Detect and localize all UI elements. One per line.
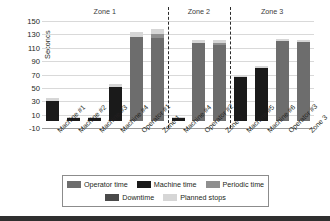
bar-segment-machine-time (46, 101, 59, 121)
legend-swatch-icon (105, 194, 119, 201)
legend-item-downtime[interactable]: Downtime (105, 193, 154, 202)
y-gridline (42, 21, 314, 22)
x-axis-tick-label: Zone 3 (308, 129, 313, 134)
page-footer-rule (0, 216, 330, 221)
x-axis-tick-label: Operator #3 (287, 129, 292, 134)
y-gridline (42, 61, 314, 62)
x-axis-tick-label: Machine #3 (98, 129, 103, 134)
y-gridline (42, 48, 314, 49)
legend-label: Downtime (122, 193, 154, 202)
legend-item-periodic-time[interactable]: Periodic time (206, 180, 265, 189)
y-gridline (42, 34, 314, 35)
y-axis-tick-label: 150 (6, 17, 40, 26)
chart-legend: Operator timeMachine timePeriodic time D… (62, 175, 269, 207)
x-axis-tick-label: Machine #1 (56, 129, 61, 134)
legend-item-machine-time[interactable]: Machine time (137, 180, 197, 189)
y-gridline (42, 88, 314, 89)
x-axis-tick-label: Operator #1 (140, 129, 145, 134)
x-axis-tick-label: Machine #4 (182, 129, 187, 134)
y-axis-tick-label: 90 (6, 57, 40, 66)
legend-label: Operator time (84, 180, 128, 189)
legend-row-1: Operator timeMachine timePeriodic time (63, 178, 268, 191)
y-axis-tick-label: 70 (6, 71, 40, 80)
legend-label: Machine time (154, 180, 197, 189)
legend-label: Planned stops (180, 193, 226, 202)
legend-swatch-icon (137, 181, 151, 188)
bar-machine-1[interactable] (46, 98, 59, 121)
x-axis-tick-label: Machine #5 (245, 129, 250, 134)
x-axis-tick-label: Machine #6 (266, 129, 271, 134)
y-axis-tick-label: 130 (6, 30, 40, 39)
y-axis-tick-label: 110 (6, 44, 40, 53)
x-axis-label-row: Machine #1Machine #2Machine #3Machine #4… (42, 129, 314, 171)
x-axis-tick-label: Operator #2 (203, 129, 208, 134)
zone-header-zone-1: Zone 1 (75, 7, 135, 16)
legend-swatch-icon (67, 181, 81, 188)
zone-header-zone-2: Zone 2 (169, 7, 229, 16)
y-axis-tick-label: -10 (6, 124, 40, 133)
legend-row-2: DowntimePlanned stops (63, 191, 268, 204)
x-axis-tick-label: Machine #4 (119, 129, 124, 134)
y-axis-tick-label: 50 (6, 84, 40, 93)
x-axis-tick-label: Machine #2 (77, 129, 82, 134)
x-axis-tick-label: Zone 1 (161, 129, 166, 134)
legend-swatch-icon (163, 194, 177, 201)
bar-chart-figure: Zone 1Zone 2Zone 3 Seconds -101030507090… (0, 0, 330, 221)
y-gridline (42, 75, 314, 76)
legend-item-operator-time[interactable]: Operator time (67, 180, 128, 189)
legend-label: Periodic time (223, 180, 265, 189)
legend-swatch-icon (206, 181, 220, 188)
y-axis-tick-label: 30 (6, 97, 40, 106)
y-axis-tick-label: 10 (6, 111, 40, 120)
zone-header-zone-3: Zone 3 (242, 7, 302, 16)
y-gridline (42, 101, 314, 102)
legend-item-planned-stops[interactable]: Planned stops (163, 193, 226, 202)
x-axis-tick-label: Zone 2 (224, 129, 229, 134)
zone-header-row: Zone 1Zone 2Zone 3 (42, 7, 314, 20)
